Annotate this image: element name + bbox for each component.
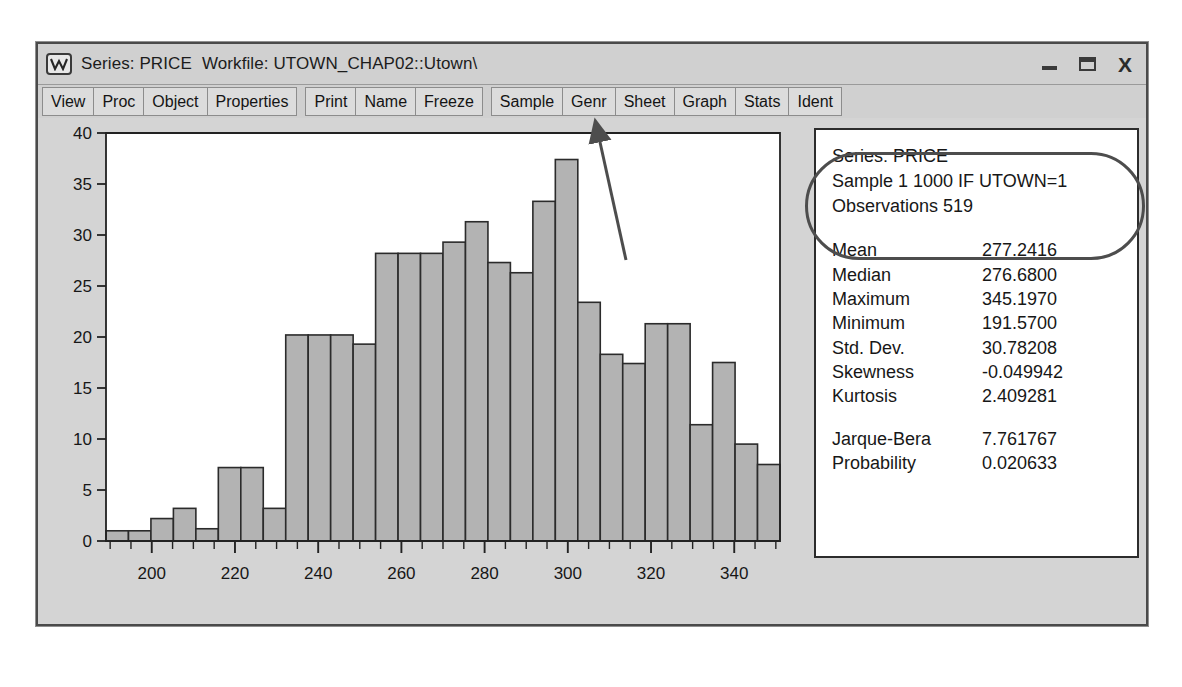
- stat-row-minimum: Minimum 191.5700: [832, 311, 1121, 335]
- toolbar-button-view[interactable]: View: [42, 87, 94, 116]
- stats-header-observations: Observations 519: [832, 194, 1121, 219]
- stat-label-jarque-bera: Jarque-Bera: [832, 427, 982, 451]
- histogram-bar: [173, 508, 195, 541]
- toolbar-button-name[interactable]: Name: [355, 87, 416, 116]
- stat-value-probability: 0.020633: [982, 451, 1057, 475]
- histogram-bar: [286, 335, 308, 541]
- toolbar-group-sample: Sample Genr Sheet Graph Stats Ident: [491, 87, 841, 116]
- x-axis-tick-label: 240: [304, 564, 332, 583]
- screenshot-root: Series: PRICEWorkfile: UTOWN_CHAP02::Uto…: [0, 0, 1182, 687]
- minimize-icon[interactable]: [1042, 66, 1057, 70]
- histogram-bar: [151, 519, 173, 541]
- stat-label-mean: Mean: [832, 238, 982, 262]
- series-chart-icon: [46, 53, 72, 75]
- stat-value-std-dev: 30.78208: [982, 336, 1057, 360]
- stat-label-kurtosis: Kurtosis: [832, 384, 982, 408]
- stats-rows-test: Jarque-Bera 7.761767 Probability 0.02063…: [832, 427, 1121, 476]
- maximize-icon[interactable]: [1079, 57, 1096, 71]
- x-axis-tick-label: 320: [637, 564, 665, 583]
- stat-row-kurtosis: Kurtosis 2.409281: [832, 384, 1121, 408]
- toolbar-button-genr[interactable]: Genr: [562, 87, 616, 116]
- title-workfile: Workfile: UTOWN_CHAP02::Utown\: [202, 54, 477, 73]
- histogram-bar: [690, 425, 712, 541]
- stat-row-jarque-bera: Jarque-Bera 7.761767: [832, 427, 1121, 451]
- stats-header-sample: Sample 1 1000 IF UTOWN=1: [832, 169, 1121, 194]
- histogram-bar: [263, 508, 285, 541]
- y-axis-tick-label: 0: [83, 532, 92, 551]
- toolbar-button-freeze[interactable]: Freeze: [415, 87, 483, 116]
- x-axis-tick-label: 220: [221, 564, 249, 583]
- y-axis-tick-label: 40: [73, 124, 92, 143]
- stat-row-skewness: Skewness -0.049942: [832, 360, 1121, 384]
- toolbar-button-sheet[interactable]: Sheet: [615, 87, 675, 116]
- title-series: Series: PRICE: [81, 54, 192, 73]
- y-axis-tick-label: 25: [73, 277, 92, 296]
- histogram-bar: [421, 253, 443, 541]
- toolbar-button-print[interactable]: Print: [305, 87, 356, 116]
- histogram-bar: [398, 253, 420, 541]
- stat-label-maximum: Maximum: [832, 287, 982, 311]
- histogram-bar: [735, 444, 757, 541]
- stat-label-minimum: Minimum: [832, 311, 982, 335]
- histogram-bar: [376, 253, 398, 541]
- stat-row-mean: Mean 277.2416: [832, 238, 1121, 262]
- stats-separator: [832, 409, 1121, 427]
- stat-row-median: Median 276.6800: [832, 263, 1121, 287]
- toolbar-button-object[interactable]: Object: [143, 87, 207, 116]
- histogram-bar: [331, 335, 353, 541]
- y-axis-tick-label: 30: [73, 226, 92, 245]
- y-axis-tick-label: 5: [83, 481, 92, 500]
- y-axis-tick-label: 10: [73, 430, 92, 449]
- histogram-bar: [353, 344, 375, 541]
- x-axis-tick-label: 280: [470, 564, 498, 583]
- toolbar-button-graph[interactable]: Graph: [674, 87, 736, 116]
- histogram-bar: [488, 263, 510, 541]
- stats-header-series: Series: PRICE: [832, 144, 1121, 169]
- histogram-bar: [623, 364, 645, 541]
- toolbar-group-view: View Proc Object Properties: [42, 87, 296, 116]
- stat-row-std-dev: Std. Dev. 30.78208: [832, 336, 1121, 360]
- window-title: Series: PRICEWorkfile: UTOWN_CHAP02::Uto…: [81, 54, 477, 74]
- histogram-bar: [510, 273, 532, 541]
- histogram-bar: [443, 242, 465, 541]
- stats-rows-primary: Mean 277.2416 Median 276.6800 Maximum 34…: [832, 238, 1121, 408]
- stat-value-maximum: 345.1970: [982, 287, 1057, 311]
- close-icon[interactable]: X: [1118, 54, 1132, 75]
- histogram-svg: 0510152025303540200220240260280300320340: [52, 122, 800, 592]
- histogram-bar: [555, 160, 577, 541]
- stat-value-median: 276.6800: [982, 263, 1057, 287]
- y-axis-tick-label: 35: [73, 175, 92, 194]
- histogram-bar: [645, 324, 667, 541]
- histogram-bar: [578, 302, 600, 541]
- histogram-bar: [308, 335, 330, 541]
- stat-label-skewness: Skewness: [832, 360, 982, 384]
- stat-label-median: Median: [832, 263, 982, 287]
- histogram-bar: [533, 201, 555, 541]
- y-axis-tick-label: 20: [73, 328, 92, 347]
- x-axis-tick-label: 260: [387, 564, 415, 583]
- stats-header: Series: PRICE Sample 1 1000 IF UTOWN=1 O…: [832, 144, 1121, 218]
- histogram-bar: [218, 468, 240, 541]
- toolbar-button-ident[interactable]: Ident: [788, 87, 842, 116]
- histogram-chart: 0510152025303540200220240260280300320340: [52, 122, 800, 592]
- stat-value-mean: 277.2416: [982, 238, 1057, 262]
- toolbar-button-stats[interactable]: Stats: [735, 87, 789, 116]
- x-axis-tick-label: 340: [720, 564, 748, 583]
- histogram-bar: [600, 354, 622, 541]
- histogram-bar: [106, 531, 128, 541]
- toolbar-button-properties[interactable]: Properties: [207, 87, 298, 116]
- stat-value-kurtosis: 2.409281: [982, 384, 1057, 408]
- eviews-series-window: Series: PRICEWorkfile: UTOWN_CHAP02::Uto…: [36, 42, 1148, 626]
- toolbar-button-proc[interactable]: Proc: [93, 87, 144, 116]
- window-title-bar[interactable]: Series: PRICEWorkfile: UTOWN_CHAP02::Uto…: [38, 44, 1146, 84]
- y-axis-tick-label: 15: [73, 379, 92, 398]
- toolbar-button-sample[interactable]: Sample: [491, 87, 563, 116]
- toolbar-divider-2: [482, 87, 491, 116]
- stat-value-minimum: 191.5700: [982, 311, 1057, 335]
- histogram-bar: [465, 222, 487, 541]
- histogram-bar: [128, 531, 150, 541]
- x-axis-tick-label: 300: [554, 564, 582, 583]
- stat-row-maximum: Maximum 345.1970: [832, 287, 1121, 311]
- stat-label-std-dev: Std. Dev.: [832, 336, 982, 360]
- stat-row-probability: Probability 0.020633: [832, 451, 1121, 475]
